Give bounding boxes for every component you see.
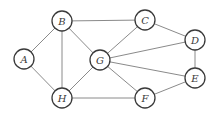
node-label: C: [141, 15, 149, 26]
node-label: F: [141, 93, 150, 104]
node-label: G: [96, 55, 104, 66]
node-a: A: [14, 49, 34, 69]
node-label: B: [57, 16, 65, 27]
node-g: G: [90, 50, 110, 70]
edge-b-c: [62, 20, 145, 21]
node-f: F: [135, 88, 155, 108]
edge-g-d: [100, 40, 195, 60]
node-label: H: [57, 93, 67, 104]
nodes-group: ABGHCDEF: [14, 10, 205, 108]
node-label: D: [190, 35, 199, 46]
node-label: A: [19, 54, 27, 65]
node-e: E: [185, 68, 205, 88]
node-h: H: [52, 88, 72, 108]
node-b: B: [52, 11, 72, 31]
graph-diagram: ABGHCDEF: [0, 0, 217, 115]
node-d: D: [185, 30, 205, 50]
edge-g-e: [100, 60, 195, 78]
node-c: C: [135, 10, 155, 30]
node-label: E: [190, 73, 199, 84]
